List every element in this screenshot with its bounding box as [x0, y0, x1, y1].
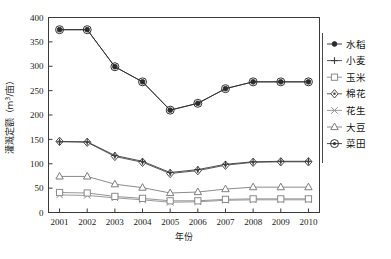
data-point-open-square [195, 198, 201, 204]
data-point-filled-circle [251, 79, 256, 84]
legend-label: 菜田 [346, 138, 366, 149]
y-tick-label: 100 [30, 159, 44, 169]
legend-label: 大豆 [346, 122, 366, 133]
x-tick-label: 2009 [272, 217, 291, 227]
y-tick-label: 250 [30, 86, 44, 96]
y-tick-label: 350 [30, 37, 44, 47]
y-tick-label: 150 [30, 135, 44, 145]
x-axis-title: 年份 [175, 231, 193, 242]
data-point-filled-circle [112, 64, 117, 69]
data-point-filled-circle [168, 108, 173, 113]
data-point-open-square [112, 193, 118, 199]
irrigation-quota-line-chart: 050100150200250300350400 200120022003200… [0, 0, 391, 259]
x-tick-label: 2006 [189, 217, 208, 227]
data-point-filled-circle [195, 101, 200, 106]
data-point-circle-dot [333, 142, 336, 145]
data-point-filled-circle [332, 42, 337, 47]
data-point-filled-circle [140, 79, 145, 84]
data-point-filled-circle [85, 27, 90, 32]
y-tick-label: 300 [30, 61, 44, 71]
x-tick-label: 2005 [161, 217, 180, 227]
y-tick-label: 50 [35, 183, 45, 193]
data-point-open-square [139, 195, 145, 201]
y-axis-title: 灌溉定额（m3/亩） [4, 76, 15, 155]
data-point-diamond-dot [333, 93, 336, 96]
legend-label: 玉米 [346, 72, 366, 83]
x-tick-label: 2002 [78, 217, 96, 227]
x-tick-label: 2007 [216, 217, 235, 227]
y-tick-label: 0 [39, 208, 44, 218]
x-tick-label: 2003 [106, 217, 125, 227]
legend-label: 棉花 [346, 88, 366, 99]
data-point-open-square [278, 196, 284, 202]
legend-item-菜田[interactable]: 菜田 [327, 138, 366, 149]
y-tick-label: 200 [30, 110, 44, 120]
data-point-open-square [250, 196, 256, 202]
legend-label: 水稻 [346, 39, 366, 50]
data-point-open-square [222, 196, 228, 202]
data-point-filled-circle [306, 79, 311, 84]
legend-label: 花生 [346, 105, 366, 116]
x-tick-label: 2001 [51, 217, 69, 227]
x-tick-label: 2004 [134, 217, 153, 227]
chart-container: 050100150200250300350400 200120022003200… [0, 0, 391, 259]
data-point-filled-circle [57, 27, 62, 32]
data-point-open-square [167, 198, 173, 204]
y-tick-label: 400 [30, 13, 44, 23]
x-tick-label: 2010 [299, 217, 318, 227]
data-point-filled-circle [223, 86, 228, 91]
x-tick-label: 2008 [244, 217, 263, 227]
data-point-open-square [331, 74, 337, 80]
data-point-open-square [305, 196, 311, 202]
data-point-open-square [56, 189, 62, 195]
data-point-filled-circle [278, 79, 283, 84]
legend-label: 小麦 [346, 55, 366, 66]
data-point-open-square [84, 190, 90, 196]
